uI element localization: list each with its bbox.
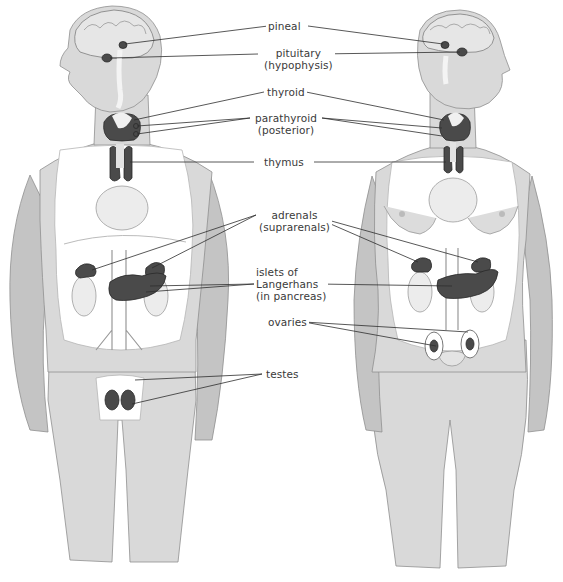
endocrine-diagram: pineal pituitary (hypophysis) thyroid pa… bbox=[0, 0, 563, 582]
female-figure bbox=[354, 10, 552, 568]
label-adrenals: adrenals (suprarenals) bbox=[257, 209, 332, 233]
label-ovaries: ovaries bbox=[266, 316, 309, 328]
label-pituitary: pituitary (hypophysis) bbox=[262, 47, 335, 71]
label-thymus: thymus bbox=[262, 156, 306, 168]
label-thyroid: thyroid bbox=[265, 86, 307, 98]
male-pineal-gland bbox=[119, 42, 127, 49]
label-adrenals-line1: adrenals bbox=[259, 209, 330, 221]
label-islets-line1: islets of bbox=[256, 266, 326, 278]
label-pituitary-line2: (hypophysis) bbox=[264, 59, 333, 71]
label-islets-line2: Langerhans bbox=[256, 278, 326, 290]
label-parathyroid-line1: parathyroid bbox=[255, 112, 317, 124]
male-figure bbox=[10, 6, 229, 562]
male-testis bbox=[105, 390, 119, 410]
label-parathyroid: parathyroid (posterior) bbox=[253, 112, 319, 136]
female-pineal-gland bbox=[441, 42, 449, 49]
label-pituitary-line1: pituitary bbox=[264, 47, 333, 59]
label-islets-line3: (in pancreas) bbox=[256, 290, 326, 302]
label-adrenals-line2: (suprarenals) bbox=[259, 221, 330, 233]
label-parathyroid-line2: (posterior) bbox=[255, 124, 317, 136]
label-islets-of-langerhans: islets of Langerhans (in pancreas) bbox=[254, 266, 328, 302]
label-testes: testes bbox=[264, 368, 301, 380]
label-pineal: pineal bbox=[266, 20, 303, 32]
